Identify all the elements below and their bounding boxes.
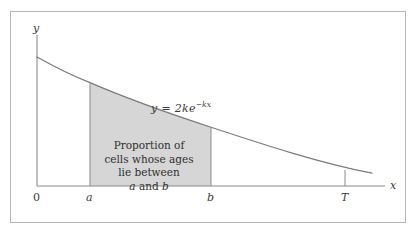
caption-var-b: b [162, 180, 169, 192]
curve-equation-label: y=2ke−kx [151, 103, 211, 114]
figure-container: y x 0 a b T y=2ke−kx Proportion of cells… [0, 0, 417, 233]
equation-lhs: y [151, 102, 157, 115]
equation-operator: = [161, 102, 170, 115]
caption-line-4: a and b [89, 180, 209, 194]
tick-label-a: a [86, 192, 93, 203]
tick-label-zero: 0 [33, 192, 40, 203]
shaded-region-caption: Proportion of cells whose ages lie betwe… [89, 139, 209, 193]
equation-exponent: −kx [196, 100, 212, 109]
x-axis-label: x [390, 180, 396, 191]
equation-rhs: 2ke [175, 102, 196, 115]
tick-label-T: T [341, 192, 348, 203]
caption-line-3: lie between [89, 166, 209, 180]
caption-line-1: Proportion of [89, 139, 209, 153]
y-axis-label: y [33, 23, 39, 34]
caption-line-2: cells whose ages [89, 153, 209, 167]
tick-label-b: b [207, 192, 214, 203]
caption-conjunction: and [136, 180, 162, 192]
